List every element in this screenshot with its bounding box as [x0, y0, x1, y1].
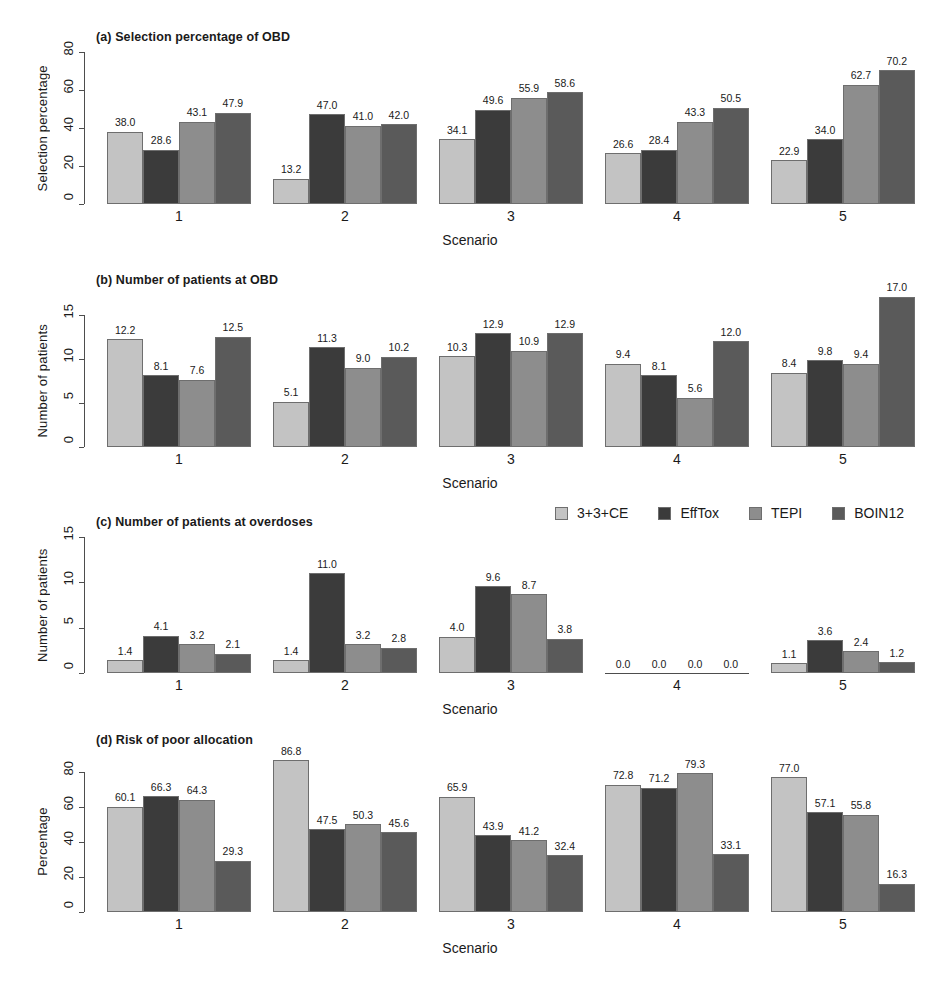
panel-d-x-tick-4: 4: [605, 916, 749, 932]
bar: [475, 835, 511, 912]
panel-d-y-tick: [79, 842, 84, 843]
panel-d-plot-area: 60.166.364.329.386.847.550.345.665.943.9…: [96, 746, 926, 912]
panel-d-title: (d) Risk of poor allocation: [96, 733, 253, 747]
panel-d-x-tick-2: 2: [273, 916, 417, 932]
panel-d-y-axis-label: Percentage: [35, 772, 50, 912]
bar: [547, 855, 583, 912]
panel-d-y-tick-label: 80: [62, 761, 75, 775]
panel-d-group-4: 72.871.279.333.1: [605, 746, 749, 912]
bar-value-label: 45.6: [373, 818, 425, 829]
bar: [345, 824, 381, 912]
panel-d-y-tick: [79, 772, 84, 773]
legend-swatch-icon: [658, 507, 671, 520]
bar: [605, 785, 641, 912]
legend-item-efftox: EffTox: [658, 505, 719, 521]
legend-item-tepi: TEPI: [749, 505, 802, 521]
bar-value-label: 86.8: [265, 746, 317, 757]
bar: [107, 807, 143, 912]
bar: [143, 796, 179, 912]
bar-value-label: 77.0: [763, 763, 815, 774]
panel-d-x-axis-label: Scenario: [0, 940, 940, 956]
panel-d: (d) Risk of poor allocation020406080Perc…: [0, 0, 940, 986]
bar: [843, 815, 879, 913]
bar: [215, 861, 251, 912]
panel-d-group-5: 77.057.155.816.3: [771, 746, 915, 912]
legend-swatch-icon: [555, 507, 568, 520]
legend-label: EffTox: [680, 505, 719, 521]
panel-d-x-tick-3: 3: [439, 916, 583, 932]
legend-label: BOIN12: [854, 505, 904, 521]
bar: [807, 812, 843, 912]
legend-label: TEPI: [771, 505, 802, 521]
panel-d-x-tick-5: 5: [771, 916, 915, 932]
panel-d-y-tick: [79, 877, 84, 878]
panel-d-y-tick: [79, 912, 84, 913]
bar: [309, 829, 345, 912]
panel-d-y-tick-label: 20: [62, 866, 75, 880]
panel-d-y-tick-label: 60: [62, 796, 75, 810]
bar: [273, 760, 309, 912]
bar-value-label: 65.9: [431, 782, 483, 793]
legend-swatch-icon: [832, 507, 845, 520]
bar: [713, 854, 749, 912]
panel-d-y-tick: [79, 807, 84, 808]
bar-value-label: 64.3: [171, 785, 223, 796]
bar-value-label: 29.3: [207, 846, 259, 857]
bar-value-label: 33.1: [705, 840, 757, 851]
bar: [439, 797, 475, 912]
panel-d-y-tick-label: 0: [62, 901, 75, 908]
bar: [381, 832, 417, 912]
bar-value-label: 79.3: [669, 759, 721, 770]
figure-root: (a) Selection percentage of OBD020406080…: [0, 0, 940, 986]
panel-d-group-2: 86.847.550.345.6: [273, 746, 417, 912]
panel-d-y-tick-label: 40: [62, 831, 75, 845]
bar-value-label: 41.2: [503, 826, 555, 837]
panel-d-group-3: 65.943.941.232.4: [439, 746, 583, 912]
bar-value-label: 55.8: [835, 800, 887, 811]
panel-d-x-tick-1: 1: [107, 916, 251, 932]
bar: [641, 788, 677, 912]
bar: [879, 884, 915, 912]
legend-item-boin12: BOIN12: [832, 505, 904, 521]
panel-d-group-1: 60.166.364.329.3: [107, 746, 251, 912]
bar-value-label: 16.3: [871, 869, 923, 880]
panel-d-y-axis-line: [84, 772, 85, 912]
bar-value-label: 32.4: [539, 841, 591, 852]
legend: 3+3+CEEffToxTEPIBOIN12: [555, 505, 904, 521]
legend-label: 3+3+CE: [577, 505, 628, 521]
legend-swatch-icon: [749, 507, 762, 520]
legend-item-3-3-ce: 3+3+CE: [555, 505, 628, 521]
